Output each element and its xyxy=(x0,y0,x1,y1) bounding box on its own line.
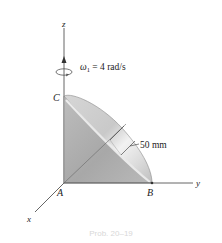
point-c-label: C xyxy=(53,92,60,103)
z-axis-label: z xyxy=(61,19,66,29)
figure-caption: Prob. 20–19 xyxy=(0,229,222,238)
point-a-label: A xyxy=(56,187,64,198)
y-axis-label: y xyxy=(195,178,200,188)
z-arrowhead-icon xyxy=(62,56,67,63)
x-axis-label: x xyxy=(26,214,31,224)
angular-velocity-label: ω1 = 4 rad/s xyxy=(80,62,126,73)
cone-diagram: z y x C A B ω1 = 4 rad/s 50 mm xyxy=(0,0,222,243)
point-b-label: B xyxy=(147,187,153,198)
dimension-label: 50 mm xyxy=(140,140,167,150)
